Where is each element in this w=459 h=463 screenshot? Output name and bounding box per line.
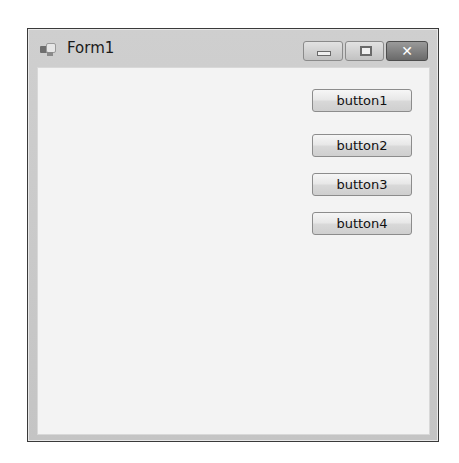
form-app-icon[interactable] [40,43,56,57]
client-area: button1 button2 button3 button4 [37,67,430,435]
minimize-icon [317,51,331,56]
form1-window: Form1 ✕ button1 button2 button3 button4 [27,28,439,442]
maximize-button[interactable] [345,41,384,61]
close-button[interactable]: ✕ [386,41,428,61]
button4[interactable]: button4 [312,212,412,235]
close-icon: ✕ [387,42,427,60]
maximize-icon [360,46,372,56]
button1[interactable]: button1 [312,89,412,112]
minimize-button[interactable] [303,41,343,61]
caption-buttons: ✕ [303,41,428,61]
button2[interactable]: button2 [312,134,412,157]
button3[interactable]: button3 [312,173,412,196]
title-bar[interactable]: Form1 ✕ [28,29,438,67]
window-title: Form1 [67,39,114,57]
